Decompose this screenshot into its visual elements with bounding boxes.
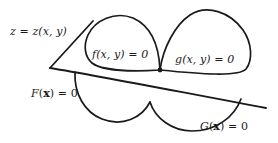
label-upper-right-curve: g(x, y) = 0 bbox=[175, 54, 234, 65]
label-G-vector-arg: x bbox=[213, 120, 220, 133]
label-lower-right-curve: G(x) = 0 bbox=[200, 121, 248, 132]
label-G-equals: = bbox=[224, 120, 241, 133]
label-F-equals: = bbox=[54, 87, 71, 100]
label-G-function: G bbox=[200, 120, 209, 133]
label-upper-left-curve: f(x, y) = 0 bbox=[92, 49, 148, 60]
junction-point-marker bbox=[158, 68, 163, 73]
label-surface-equation: z = z(x, y) bbox=[10, 26, 67, 37]
figure-canvas: z = z(x, y) f(x, y) = 0 g(x, y) = 0 F(x)… bbox=[0, 0, 278, 143]
label-F-function: F bbox=[31, 87, 39, 100]
label-F-vector-arg: x bbox=[43, 87, 50, 100]
label-lower-left-curve: F(x) = 0 bbox=[31, 88, 78, 99]
label-G-value: 0 bbox=[241, 120, 248, 133]
label-F-value: 0 bbox=[71, 87, 78, 100]
upper-dome-f-curve bbox=[85, 16, 160, 71]
